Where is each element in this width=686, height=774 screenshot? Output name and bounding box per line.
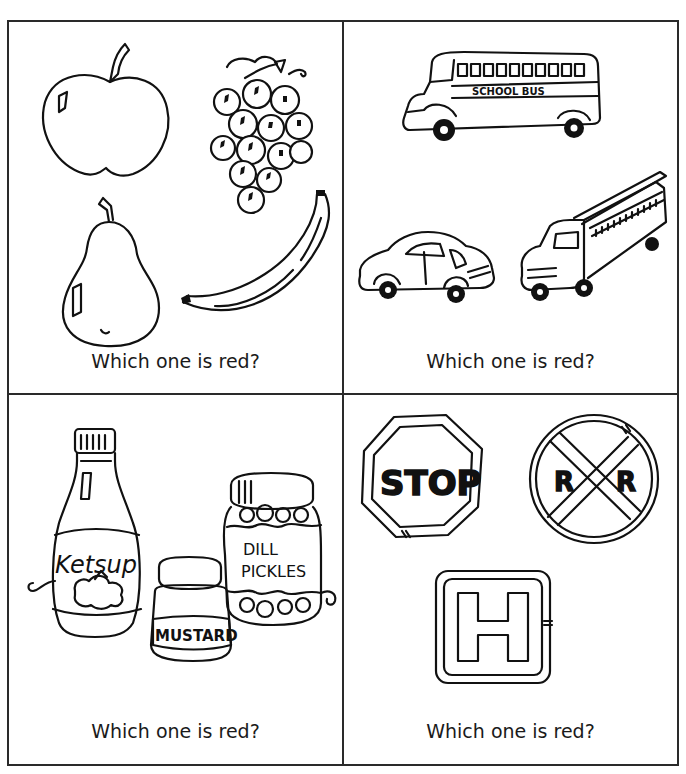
hospital-sign-icon[interactable] xyxy=(436,571,552,683)
apple-icon[interactable] xyxy=(43,44,168,176)
question-caption: Which one is red? xyxy=(344,350,677,372)
panel-signs: STOP R R Which one is red? xyxy=(344,395,677,764)
pickle-jar-icon[interactable]: DILL PICKLES xyxy=(224,473,335,625)
question-caption: Which one is red? xyxy=(344,720,677,742)
railroad-crossing-icon[interactable]: R R xyxy=(530,415,658,543)
ketchup-label: Ketsup xyxy=(55,551,137,579)
car-icon[interactable] xyxy=(359,232,494,303)
panel-condiments: Ketsup MUSTARD DILL PICKLE xyxy=(9,395,344,764)
panel-vehicles: SCHOOL BUS xyxy=(344,22,677,395)
railroad-label-right: R xyxy=(616,467,636,497)
grapes-icon[interactable] xyxy=(211,57,312,213)
pickle-label-line1: DILL xyxy=(243,540,278,559)
question-caption: Which one is red? xyxy=(9,350,342,372)
panel-fruits: Which one is red? xyxy=(9,22,344,395)
school-bus-icon[interactable]: SCHOOL BUS xyxy=(403,52,600,141)
worksheet: Which one is red? SCHOOL BUS xyxy=(7,20,679,766)
pear-icon[interactable] xyxy=(63,198,159,346)
mustard-jar-icon[interactable]: MUSTARD xyxy=(151,557,238,661)
ketchup-bottle-icon[interactable]: Ketsup xyxy=(29,429,142,637)
railroad-label-left: R xyxy=(554,467,574,497)
question-caption: Which one is red? xyxy=(9,720,342,742)
pickle-label-line2: PICKLES xyxy=(241,562,306,581)
stop-label: STOP xyxy=(380,463,482,503)
fire-truck-icon[interactable] xyxy=(521,172,666,301)
mustard-label: MUSTARD xyxy=(155,627,238,645)
stop-sign-icon[interactable]: STOP xyxy=(362,415,482,537)
bus-label: SCHOOL BUS xyxy=(472,86,545,97)
